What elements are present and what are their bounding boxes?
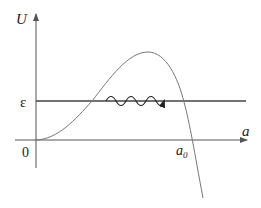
root-label-subscript: 0	[183, 150, 188, 160]
energy-level-label: ε	[20, 94, 26, 110]
x-axis-label: a	[242, 123, 250, 139]
potential-energy-diagram: U ε 0 a a0	[0, 0, 261, 208]
origin-label: 0	[22, 145, 29, 160]
potential-curve	[36, 52, 203, 198]
root-label: a0	[176, 143, 188, 160]
root-label-base: a	[176, 143, 183, 158]
y-axis-label: U	[16, 11, 28, 27]
